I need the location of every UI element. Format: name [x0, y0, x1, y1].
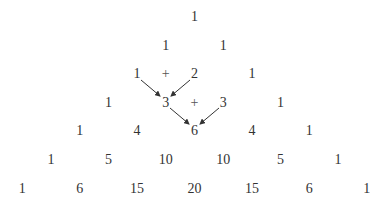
- triangle-cell: 1: [306, 124, 313, 138]
- plus-operator: +: [162, 67, 170, 81]
- arrow-icon: [171, 80, 190, 96]
- triangle-cell: 1: [48, 153, 55, 167]
- triangle-cell: 1: [191, 10, 198, 24]
- triangle-cell: 2: [191, 67, 198, 81]
- triangle-cell: 10: [216, 153, 230, 167]
- triangle-cell: 1: [134, 67, 141, 81]
- triangle-cell: 1: [162, 39, 169, 53]
- triangle-cell: 1: [335, 153, 342, 167]
- triangle-cell: 10: [159, 153, 173, 167]
- triangle-cell: 1: [19, 182, 26, 196]
- triangle-cell: 6: [191, 124, 198, 138]
- triangle-cell: 1: [105, 96, 112, 110]
- triangle-cell: 15: [130, 182, 144, 196]
- arrow-icon: [141, 80, 160, 96]
- triangle-cell: 6: [306, 182, 313, 196]
- triangle-cell: 1: [277, 96, 284, 110]
- triangle-cell: 3: [162, 96, 169, 110]
- triangle-cell: 1: [220, 39, 227, 53]
- triangle-cell: 1: [363, 182, 370, 196]
- addition-arrows: [0, 0, 370, 208]
- plus-operator: +: [191, 96, 199, 110]
- triangle-cell: 6: [76, 182, 83, 196]
- triangle-cell: 15: [245, 182, 259, 196]
- arrow-icon: [170, 108, 189, 124]
- arrow-icon: [200, 108, 219, 124]
- triangle-cell: 4: [248, 124, 255, 138]
- triangle-cell: 4: [134, 124, 141, 138]
- triangle-cell: 1: [76, 124, 83, 138]
- triangle-cell: 5: [277, 153, 284, 167]
- triangle-cell: 20: [188, 182, 202, 196]
- triangle-cell: 1: [248, 67, 255, 81]
- triangle-cell: 5: [105, 153, 112, 167]
- triangle-cell: 3: [220, 96, 227, 110]
